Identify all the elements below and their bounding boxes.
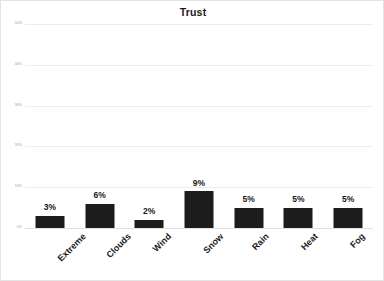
chart-container: Trust 50%40%30%20%10%0% 3%6%2%9%5%5%5% E…: [0, 0, 384, 281]
x-axis-tick-label: Rain: [250, 232, 270, 252]
bar[interactable]: [184, 191, 213, 228]
bar[interactable]: [35, 216, 64, 228]
bar-group: 2%: [124, 24, 174, 228]
bar-group: 5%: [224, 24, 274, 228]
x-axis-label-slot: Extreme: [25, 230, 75, 280]
bar-group: 5%: [323, 24, 373, 228]
bar-value-label: 5%: [342, 195, 354, 204]
x-axis-label-slot: Clouds: [75, 230, 125, 280]
y-axis-tick-label: 0%: [17, 226, 22, 230]
bar[interactable]: [284, 208, 313, 228]
bar-group: 9%: [174, 24, 224, 228]
y-axis-tick-label: 30%: [15, 104, 22, 108]
x-axis-label-slot: Snow: [174, 230, 224, 280]
x-axis-label-slot: Wind: [124, 230, 174, 280]
x-axis-tick-label: Fog: [349, 232, 367, 250]
bar[interactable]: [234, 208, 263, 228]
x-axis-label-slot: Fog: [323, 230, 373, 280]
y-axis-tick-label: 10%: [15, 185, 22, 189]
bar-value-label: 6%: [93, 191, 105, 200]
y-axis-tick-label: 40%: [15, 63, 22, 67]
bar-group: 3%: [25, 24, 75, 228]
bar-group: 6%: [75, 24, 125, 228]
bar-value-label: 3%: [44, 203, 56, 212]
bar-group: 5%: [274, 24, 324, 228]
bar-value-label: 9%: [193, 179, 205, 188]
bar[interactable]: [135, 220, 164, 228]
y-axis-tick-label: 20%: [15, 145, 22, 149]
bar[interactable]: [334, 208, 363, 228]
y-axis-tick-label: 50%: [15, 22, 22, 26]
x-axis-tick-label: Heat: [300, 232, 320, 252]
bar-value-label: 5%: [292, 195, 304, 204]
bar-value-label: 2%: [143, 207, 155, 216]
x-axis-label-slot: Rain: [224, 230, 274, 280]
plot-area: 50%40%30%20%10%0% 3%6%2%9%5%5%5%: [25, 24, 373, 228]
chart-title: Trust: [1, 6, 384, 18]
bar-series: 3%6%2%9%5%5%5%: [25, 24, 373, 228]
gridline: 0%: [25, 228, 373, 229]
x-axis-tick-label: Wind: [152, 232, 174, 254]
x-axis-labels: ExtremeCloudsWindSnowRainHeatFog: [25, 230, 373, 280]
bar[interactable]: [85, 204, 114, 228]
bar-value-label: 5%: [243, 195, 255, 204]
x-axis-tick-label: Snow: [202, 232, 225, 255]
x-axis-label-slot: Heat: [274, 230, 324, 280]
